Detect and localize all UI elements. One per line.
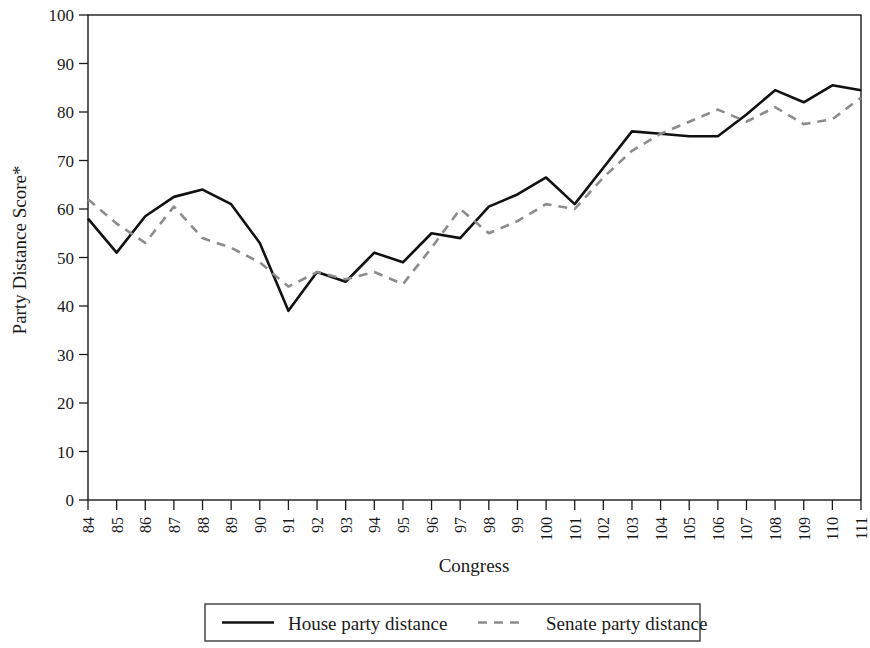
x-tick-label: 108 [767, 517, 784, 541]
y-tick-label: 90 [57, 55, 74, 74]
y-tick-label: 40 [57, 297, 74, 316]
x-tick-label: 89 [223, 517, 240, 533]
legend-label-house: House party distance [288, 613, 447, 634]
x-tick-label: 99 [509, 517, 526, 533]
x-tick-label: 105 [681, 517, 698, 541]
y-axis: 0102030405060708090100 [49, 6, 89, 510]
x-tick-label: 109 [796, 517, 813, 541]
series-line-house [88, 85, 861, 311]
x-tick-label: 102 [595, 517, 612, 541]
x-tick-label: 94 [366, 517, 383, 533]
x-tick-label: 98 [481, 517, 498, 533]
x-axis-title: Congress [439, 555, 510, 576]
x-tick-label: 87 [166, 517, 183, 533]
y-tick-label: 80 [57, 103, 74, 122]
x-tick-label: 100 [538, 517, 555, 541]
x-tick-label: 85 [109, 517, 126, 533]
y-tick-label: 50 [57, 249, 74, 268]
x-tick-label: 110 [824, 517, 841, 540]
x-tick-label: 95 [395, 517, 412, 533]
y-tick-label: 100 [49, 6, 75, 25]
x-tick-label: 90 [252, 517, 269, 533]
x-tick-label: 107 [738, 517, 755, 541]
x-tick-label: 92 [309, 517, 326, 533]
data-series-group [88, 85, 861, 311]
x-axis: 8485868788899091929394959697989910010110… [80, 500, 870, 541]
y-tick-label: 10 [57, 443, 74, 462]
x-tick-label: 91 [280, 517, 297, 533]
y-tick-label: 70 [57, 152, 74, 171]
x-tick-label: 103 [624, 517, 641, 541]
plot-frame [88, 15, 861, 500]
x-tick-label: 97 [452, 517, 469, 533]
x-tick-label: 86 [137, 517, 154, 533]
y-tick-label: 0 [66, 491, 75, 510]
y-tick-label: 30 [57, 346, 74, 365]
x-tick-label: 111 [853, 517, 870, 540]
y-axis-title: Party Distance Score* [9, 166, 30, 335]
x-tick-label: 88 [195, 517, 212, 533]
x-tick-label: 84 [80, 517, 97, 533]
series-line-senate [88, 97, 861, 286]
legend-label-senate: Senate party distance [546, 613, 707, 634]
chart-figure: Party Distance Score* 010203040506070809… [0, 0, 870, 648]
y-tick-label: 60 [57, 200, 74, 219]
y-axis-title-text: Party Distance Score* [9, 166, 30, 335]
x-tick-label: 96 [424, 517, 441, 533]
x-tick-label: 106 [710, 517, 727, 541]
x-tick-label: 101 [567, 517, 584, 541]
chart-legend: House party distanceSenate party distanc… [205, 604, 707, 641]
party-distance-line-chart: Party Distance Score* 010203040506070809… [0, 0, 870, 648]
y-tick-label: 20 [57, 394, 74, 413]
x-tick-label: 93 [338, 517, 355, 533]
x-tick-label: 104 [653, 517, 670, 541]
